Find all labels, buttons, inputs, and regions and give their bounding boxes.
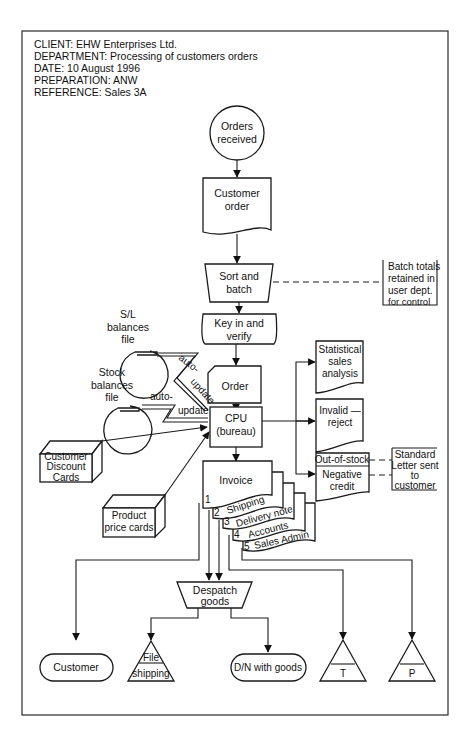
svg-text:Discount: Discount [47, 461, 86, 472]
svg-text:Product: Product [112, 510, 147, 521]
node-sort-and-batch: Sort and batch [205, 264, 273, 302]
svg-text:file: file [121, 333, 135, 345]
svg-text:customer: customer [394, 480, 436, 491]
svg-text:T: T [340, 668, 346, 679]
svg-text:CPU: CPU [225, 412, 247, 424]
svg-text:user dept.: user dept. [388, 285, 432, 296]
header-reference: REFERENCE: Sales 3A [34, 86, 147, 98]
header-date: DATE: 10 August 1996 [34, 62, 140, 74]
node-statistical-sales-analysis: Statistical sales analysis [316, 341, 363, 393]
svg-text:analysis: analysis [322, 368, 358, 379]
svg-text:retained in: retained in [388, 273, 435, 284]
svg-text:2: 2 [214, 507, 220, 518]
svg-text:Cards: Cards [53, 472, 80, 483]
node-cpu: CPU (bureau) [210, 407, 262, 447]
header-block: CLIENT: EHW Enterprises Ltd. DEPARTMENT:… [34, 38, 258, 98]
arrow-despatch-to-dn-goods [231, 608, 268, 652]
node-despatch-goods: Despatch goods [177, 582, 252, 608]
out-of-stock-label: Out-of-stock [315, 454, 370, 465]
node-invalid-reject: Invalid — reject [316, 399, 363, 452]
node-file-shipping: File shipping [128, 641, 174, 681]
svg-text:Stock: Stock [99, 366, 126, 378]
svg-text:sales: sales [328, 356, 351, 367]
node-file-p: P [389, 640, 435, 681]
svg-text:Statistical: Statistical [319, 344, 362, 355]
header-preparation: PREPARATION: ANW [34, 74, 138, 86]
svg-text:batch: batch [226, 283, 252, 295]
header-client: CLIENT: EHW Enterprises Ltd. [34, 38, 177, 50]
arrow-despatch-to-file-shipping [151, 608, 198, 640]
svg-text:(bureau): (bureau) [216, 425, 256, 437]
svg-text:order: order [225, 200, 250, 212]
node-product-price-cards: Product price cards [103, 495, 165, 537]
node-invoice-set: Invoice 1 2 Shipping 3 Delivery note 4 A… [203, 461, 315, 552]
svg-text:Orders: Orders [221, 120, 253, 132]
arrow-cpu-to-exceptions [296, 421, 315, 474]
flowchart-canvas: CLIENT: EHW Enterprises Ltd. DEPARTMENT:… [0, 0, 467, 732]
svg-text:Customer: Customer [53, 661, 99, 673]
svg-text:Invoice: Invoice [219, 474, 252, 486]
svg-text:balances: balances [91, 379, 133, 391]
svg-text:Invalid —: Invalid — [319, 405, 361, 416]
node-orders-received: Orders received [210, 106, 264, 160]
node-exception-report: Out-of-stock Negative credit [315, 453, 370, 501]
svg-text:verify: verify [226, 330, 252, 342]
label-update-2: update [178, 405, 209, 416]
node-customer-order: Customer order [203, 178, 271, 234]
node-customer-discount-cards: Customer Discount Cards [40, 441, 102, 483]
label-auto-2: auto- [150, 391, 173, 402]
svg-text:4: 4 [234, 529, 240, 540]
node-batch-totals: Batch totals retained in user dept. for … [383, 260, 440, 307]
svg-text:file: file [105, 391, 119, 403]
svg-text:price cards: price cards [105, 522, 154, 533]
svg-text:3: 3 [224, 516, 230, 527]
svg-text:5: 5 [244, 541, 250, 552]
svg-text:P: P [409, 668, 416, 679]
node-customer-terminal: Customer [40, 654, 113, 681]
svg-text:Customer: Customer [214, 187, 260, 199]
svg-text:shipping: shipping [132, 668, 169, 679]
svg-text:balances: balances [107, 321, 149, 333]
svg-text:received: received [217, 133, 257, 145]
svg-text:Batch totals: Batch totals [388, 261, 440, 272]
node-dn-with-goods: D/N with goods [231, 654, 306, 681]
svg-text:reject: reject [328, 417, 353, 428]
svg-text:credit: credit [330, 481, 355, 492]
svg-text:File: File [143, 652, 160, 663]
svg-text:Standard: Standard [395, 449, 436, 460]
arrow-cpu-to-statistical [296, 362, 315, 421]
svg-text:for control: for control [388, 296, 430, 307]
node-standard-letter: Standard Letter sent to customer [391, 448, 438, 491]
svg-text:D/N with goods: D/N with goods [234, 662, 302, 673]
node-key-in-verify: Key in and verify [202, 314, 277, 344]
node-file-t: T [320, 640, 366, 681]
svg-text:1: 1 [205, 494, 211, 505]
label-auto-1: auto- [177, 352, 202, 375]
svg-text:Sort and: Sort and [219, 270, 259, 282]
svg-text:Key in and: Key in and [214, 317, 264, 329]
header-department: DEPARTMENT: Processing of customers orde… [34, 50, 258, 62]
svg-text:S/L: S/L [120, 308, 136, 320]
svg-text:Order: Order [222, 380, 249, 392]
svg-text:Negative: Negative [322, 469, 362, 480]
svg-text:goods: goods [201, 595, 230, 607]
